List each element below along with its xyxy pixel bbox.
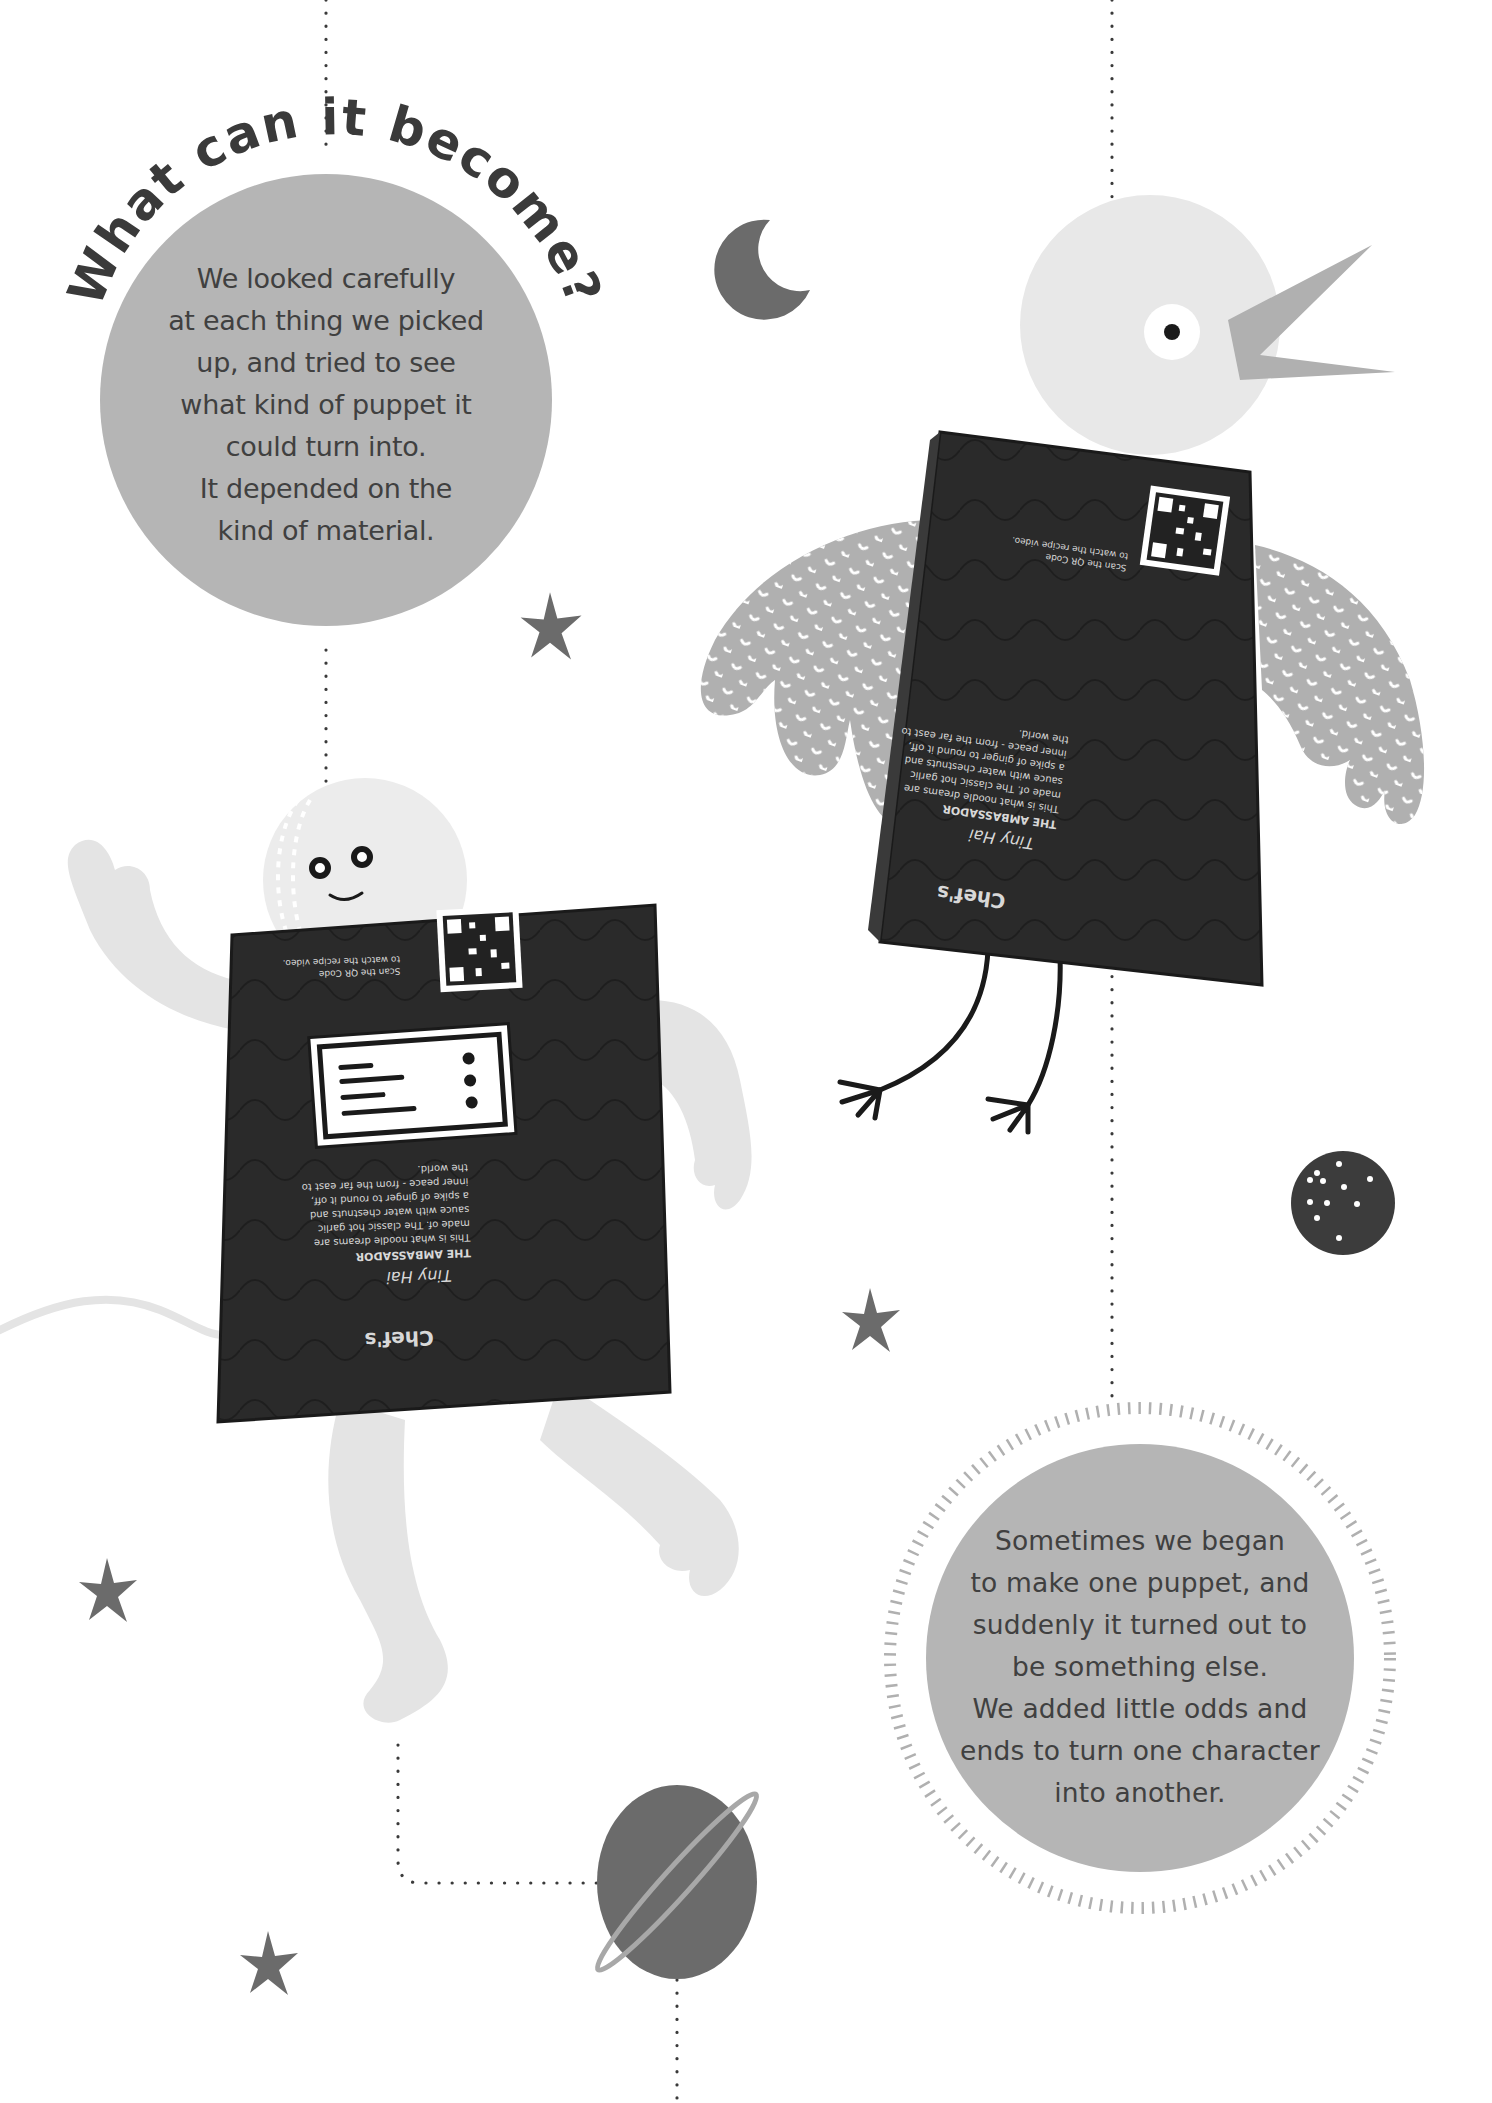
outro-line: Sometimes we began	[935, 1520, 1345, 1562]
intro-line: It depended on the	[126, 468, 526, 510]
ringed-planet-icon	[588, 1785, 767, 1979]
astronaut-package-brand: Chef's	[364, 1326, 434, 1352]
outro-line: We added little odds and	[935, 1688, 1345, 1730]
astronaut-qr-code	[436, 906, 522, 992]
moon-icon	[714, 220, 810, 320]
outro-line: be something else.	[935, 1646, 1345, 1688]
dotted-planet-icon	[1291, 1151, 1395, 1255]
astronaut-eye-right	[354, 849, 370, 865]
bird-qr-code	[1140, 486, 1230, 576]
astronaut-eye-left	[312, 860, 328, 876]
outro-paragraph: Sometimes we began to make one puppet, a…	[935, 1520, 1345, 1814]
star-icon	[521, 592, 582, 659]
intro-line: could turn into.	[126, 426, 526, 468]
outro-line: suddenly it turned out to	[935, 1604, 1345, 1646]
star-icon	[842, 1288, 900, 1352]
intro-line: We looked carefully	[126, 258, 526, 300]
bird-legs	[840, 950, 1060, 1132]
outro-line: ends to turn one character	[935, 1730, 1345, 1772]
astronaut-control-panel	[309, 1024, 516, 1148]
star-icon	[240, 1931, 298, 1995]
astronaut-right-leg	[540, 1380, 739, 1596]
intro-line: at each thing we picked	[126, 300, 526, 342]
intro-paragraph: We looked carefully at each thing we pic…	[126, 258, 526, 552]
bird-right-wing-pattern	[1255, 545, 1424, 824]
astronaut-left-leg	[328, 1400, 448, 1723]
intro-line: up, and tried to see	[126, 342, 526, 384]
astronaut-left-arm	[68, 840, 235, 1030]
astronaut-tether	[0, 1300, 225, 1335]
intro-line: kind of material.	[126, 510, 526, 552]
svg-text:the world.: the world.	[417, 1162, 468, 1175]
astronaut-right-arm	[650, 1000, 752, 1209]
outro-line: into another.	[935, 1772, 1345, 1814]
bird-puppet: THE AMBASSADOR This is what noodle dream…	[701, 195, 1424, 1132]
bird-eye	[1164, 324, 1180, 340]
star-icon	[79, 1558, 137, 1622]
outro-line: to make one puppet, and	[935, 1562, 1345, 1604]
intro-line: what kind of puppet it	[126, 384, 526, 426]
svg-text:Tiny Hai: Tiny Hai	[386, 1266, 452, 1287]
